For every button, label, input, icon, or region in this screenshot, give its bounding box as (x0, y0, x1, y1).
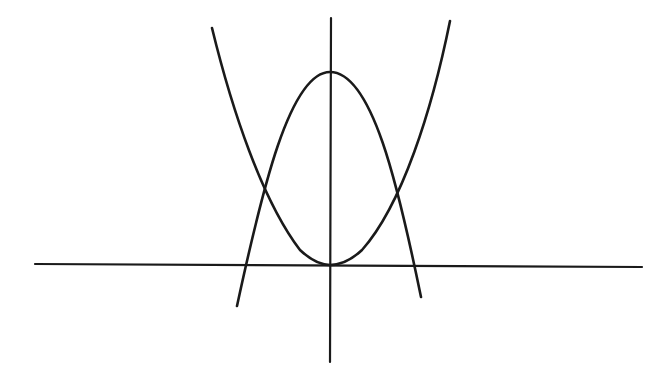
diagram-canvas (0, 0, 667, 376)
parabolas-diagram (0, 0, 667, 376)
y-axis (330, 18, 331, 362)
downward-parabola (237, 72, 421, 306)
